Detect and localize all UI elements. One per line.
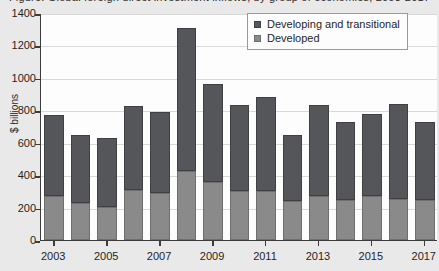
bar-segment-developing <box>283 135 303 201</box>
bar-segment-developed <box>177 171 197 240</box>
bar-segment-developed <box>124 190 144 240</box>
bar-2004[interactable] <box>71 135 91 240</box>
y-axis-tick-label: 600 <box>0 137 36 149</box>
bar-segment-developed <box>150 193 170 240</box>
bar-segment-developing <box>309 105 329 196</box>
x-axis-tick-mark <box>53 241 55 246</box>
chart-title: Figure: Global foreign direct investment… <box>9 0 430 3</box>
y-axis-tick-label: 1000 <box>0 72 36 84</box>
bar-segment-developed <box>362 196 382 240</box>
bar-segment-developed <box>309 196 329 240</box>
bar-segment-developing <box>415 122 435 200</box>
x-axis-tick-mark <box>318 241 320 246</box>
chart-title-strip: Figure: Global foreign direct investment… <box>0 0 439 7</box>
bar-2009[interactable] <box>203 84 223 240</box>
x-axis-tick-label: 2007 <box>139 250 179 262</box>
x-axis-tick-label: 2017 <box>404 250 439 262</box>
bar-segment-developed <box>415 200 435 240</box>
bar-segment-developed <box>389 199 409 240</box>
y-axis-tick-label: 400 <box>0 169 36 181</box>
bar-2015[interactable] <box>362 114 382 240</box>
bar-segment-developing <box>150 112 170 193</box>
legend-label-developed: Developed <box>267 32 320 44</box>
legend-item[interactable]: Developed <box>254 31 400 45</box>
x-axis-tick-label: 2013 <box>298 250 338 262</box>
bar-2014[interactable] <box>336 122 356 240</box>
y-axis-tick-label: 1200 <box>0 39 36 51</box>
bar-2010[interactable] <box>230 105 250 240</box>
x-axis-tick-label: 2003 <box>33 250 73 262</box>
bar-segment-developing <box>362 114 382 196</box>
bar-2017[interactable] <box>415 122 435 240</box>
bar-segment-developed <box>71 203 91 240</box>
bar-segment-developed <box>256 191 276 240</box>
y-axis-tick-mark <box>35 241 40 243</box>
x-axis-tick-label: 2011 <box>245 250 285 262</box>
bar-2012[interactable] <box>283 135 303 240</box>
bar-segment-developing <box>124 106 144 190</box>
bar-segment-developed <box>203 182 223 240</box>
bar-2008[interactable] <box>177 28 197 240</box>
bar-segment-developing <box>44 115 64 196</box>
bar-segment-developing <box>97 138 117 207</box>
bar-2011[interactable] <box>256 97 276 240</box>
y-axis-tick-label: 800 <box>0 104 36 116</box>
bar-2003[interactable] <box>44 115 64 240</box>
bar-segment-developed <box>336 200 356 240</box>
bar-segment-developing <box>230 105 250 192</box>
legend-label-developing: Developing and transitional <box>267 18 400 30</box>
x-axis-tick-label: 2005 <box>86 250 126 262</box>
bar-segment-developed <box>97 207 117 240</box>
bar-segment-developing <box>256 97 276 190</box>
x-axis-tick-mark <box>265 241 267 246</box>
x-axis-tick-label: 2009 <box>192 250 232 262</box>
x-axis-tick-mark <box>424 241 426 246</box>
chart-legend: Developing and transitional Developed <box>247 13 408 50</box>
y-axis-tick-label: 0 <box>0 234 36 246</box>
bar-segment-developing <box>336 122 356 201</box>
legend-swatch-developing-icon <box>254 21 261 28</box>
chart-container: Figure: Global foreign direct investment… <box>0 0 439 271</box>
bar-segment-developing <box>203 84 223 181</box>
bar-2006[interactable] <box>124 106 144 240</box>
bar-2005[interactable] <box>97 138 117 240</box>
y-axis-tick-label: 1400 <box>0 7 36 19</box>
bar-segment-developed <box>44 196 64 240</box>
x-axis-tick-mark <box>371 241 373 246</box>
legend-swatch-developed-icon <box>254 35 261 42</box>
x-axis-tick-label: 2015 <box>351 250 391 262</box>
bar-2013[interactable] <box>309 105 329 240</box>
bar-segment-developing <box>71 135 91 203</box>
x-axis-tick-mark <box>106 241 108 246</box>
y-axis-tick-label: 200 <box>0 202 36 214</box>
bar-segment-developing <box>389 104 409 199</box>
x-axis-tick-mark <box>212 241 214 246</box>
bar-2016[interactable] <box>389 104 409 240</box>
legend-item[interactable]: Developing and transitional <box>254 17 400 31</box>
bar-2007[interactable] <box>150 112 170 240</box>
bar-segment-developed <box>283 201 303 240</box>
x-axis-tick-mark <box>159 241 161 246</box>
bar-segment-developing <box>177 28 197 171</box>
bar-segment-developed <box>230 191 250 240</box>
